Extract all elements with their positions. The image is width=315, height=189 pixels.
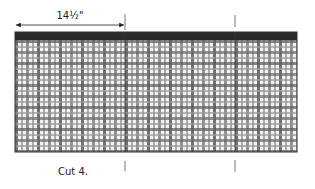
cutting-diagram: 14½" Cut 4. [0,0,315,189]
cut-caption: Cut 4. [58,166,88,177]
fabric-top-band [15,32,297,40]
dimension-label: 14½" [56,10,83,21]
fabric-plaid-body [15,40,297,152]
